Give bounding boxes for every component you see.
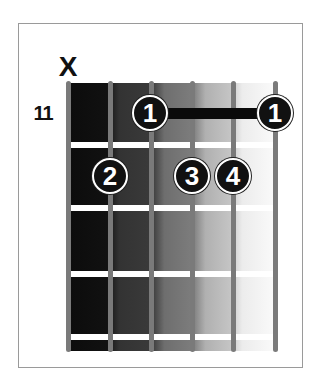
string-4 (190, 81, 195, 352)
string-1 (66, 81, 71, 352)
string-5 (231, 81, 236, 352)
muted-string-marker: X (55, 52, 81, 82)
finger-dot-string6-fret1: 1 (257, 95, 293, 131)
string-2 (108, 81, 113, 352)
fret-line-4 (70, 334, 275, 340)
fret-line-3 (70, 271, 275, 277)
finger-dot-string3-fret1: 1 (132, 95, 168, 131)
finger-dot-string4-fret2: 3 (174, 158, 210, 194)
fretboard (70, 83, 275, 351)
fret-line-1 (70, 142, 275, 148)
finger-dot-string2-fret2: 2 (92, 158, 128, 194)
start-fret-label: 11 (26, 102, 60, 124)
finger-dot-string5-fret2: 4 (215, 158, 251, 194)
fret-line-2 (70, 205, 275, 211)
